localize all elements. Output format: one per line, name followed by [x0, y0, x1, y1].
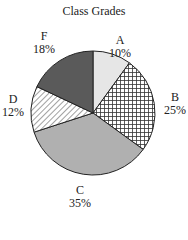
label-b: B 25%: [155, 91, 188, 117]
label-d: D 12%: [0, 93, 33, 119]
label-a-pct: 10%: [100, 47, 140, 60]
label-a: A 10%: [100, 34, 140, 60]
label-d-pct: 12%: [0, 106, 33, 119]
label-f: F 18%: [24, 30, 64, 56]
label-c-pct: 35%: [60, 197, 100, 210]
label-c: C 35%: [60, 184, 100, 210]
label-f-pct: 18%: [24, 43, 64, 56]
label-b-pct: 25%: [155, 104, 188, 117]
